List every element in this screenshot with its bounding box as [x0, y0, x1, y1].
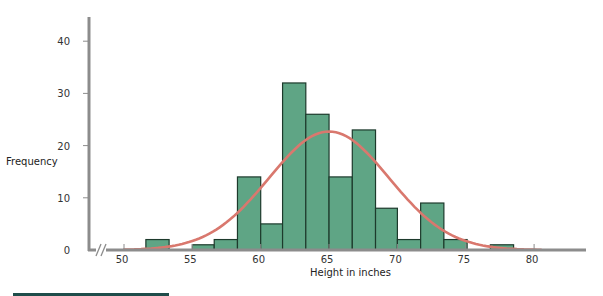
x-tick-label: 70	[389, 254, 402, 265]
y-tick-label: 0	[64, 245, 70, 256]
histogram-bar	[329, 177, 352, 250]
x-tick-label: 55	[184, 254, 197, 265]
x-tick-label: 80	[526, 254, 539, 265]
x-tick-label: 60	[252, 254, 265, 265]
histogram-bar	[421, 203, 444, 250]
histogram-bars	[146, 83, 514, 250]
x-axis-title: Height in inches	[310, 267, 391, 278]
y-tick-label: 20	[57, 141, 70, 152]
y-tick-label: 40	[57, 36, 70, 47]
y-tick-label: 10	[57, 193, 70, 204]
histogram-bar	[237, 177, 260, 250]
y-axis-ticks: 010203040	[57, 36, 89, 256]
histogram-bar	[376, 208, 398, 250]
histogram-bar	[397, 240, 420, 250]
axis-break-icon	[96, 244, 106, 256]
histogram-bar	[283, 83, 306, 250]
histogram-chart: 010203040 50556065707580 Frequency Heigh…	[0, 0, 603, 296]
histogram-bar	[214, 240, 237, 250]
x-tick-label: 50	[116, 254, 129, 265]
x-tick-label: 75	[457, 254, 470, 265]
histogram-bar	[352, 130, 375, 250]
histogram-bar	[261, 224, 283, 250]
y-axis-title: Frequency	[6, 156, 58, 167]
y-tick-label: 30	[57, 88, 70, 99]
x-tick-label: 65	[321, 254, 334, 265]
